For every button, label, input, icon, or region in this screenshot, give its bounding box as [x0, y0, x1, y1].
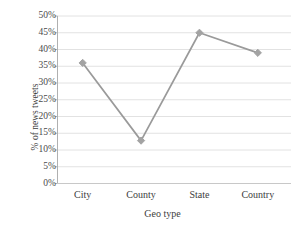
y-axis-tick-label: 40% [39, 45, 56, 55]
x-axis-tick-label: State [189, 190, 209, 200]
y-axis-tick-label: 45% [39, 28, 56, 38]
y-axis-tick-label: 15% [39, 129, 56, 139]
line-chart: 0%5%10%15%20%25%30%35%40%45%50% CityCoun… [0, 0, 305, 233]
y-axis-tick-label: 20% [39, 112, 56, 122]
x-axis-tick-label: City [74, 190, 91, 200]
y-axis-tick-label: 10% [39, 145, 56, 155]
y-axis-tick-label: 50% [39, 11, 56, 21]
y-axis-label: % of news tweets [30, 83, 40, 150]
x-axis-tick-label: County [126, 190, 155, 200]
y-axis-tick-label: 30% [39, 78, 56, 88]
y-axis-tick-label: 5% [43, 162, 56, 172]
data-point-marker [254, 49, 261, 56]
data-point-marker [196, 29, 203, 36]
series-line [83, 33, 258, 141]
x-axis-tick-label: Country [241, 190, 274, 200]
x-axis-label: Geo type [10, 208, 305, 219]
y-axis-tick-label: 25% [39, 95, 56, 105]
y-axis-tick-label: 35% [39, 62, 56, 72]
y-axis-tick-label: 0% [43, 179, 56, 189]
gridlines [58, 16, 292, 184]
